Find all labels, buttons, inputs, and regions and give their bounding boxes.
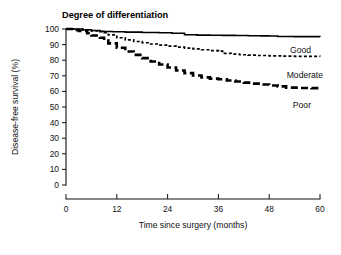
y-tick-label: 80 (50, 55, 60, 65)
series-curves (66, 29, 320, 88)
y-tick-label: 90 (50, 40, 60, 50)
series-label-moderate: Moderate (287, 70, 324, 80)
y-tick-label: 70 (50, 71, 60, 81)
chart-title-group: Degree of differentiation (62, 10, 169, 20)
x-tick-label: 24 (163, 204, 173, 214)
y-tick-label: 50 (50, 102, 60, 112)
y-tick-label: 0 (54, 180, 59, 190)
y-tick-label: 100 (45, 24, 59, 34)
y-tick-label: 20 (50, 149, 60, 159)
y-tick-label: 10 (50, 164, 60, 174)
x-axis-title: Time since surgery (months) (139, 220, 248, 230)
chart-title: Degree of differentiation (62, 10, 169, 20)
x-tick-label: 48 (265, 204, 275, 214)
y-axis-ticks: 0102030405060708090100 (45, 24, 66, 190)
x-axis-ticks: 01224364860 (64, 194, 325, 214)
y-tick-label: 40 (50, 118, 60, 128)
x-tick-label: 12 (112, 204, 122, 214)
curve-poor (66, 29, 320, 88)
series-label-poor: Poor (293, 100, 311, 110)
chart-figure: Degree of differentiation 01020304050607… (0, 0, 341, 255)
x-tick-label: 0 (64, 204, 69, 214)
curve-moderate (66, 29, 320, 57)
x-tick-label: 60 (315, 204, 325, 214)
series-label-good: Good (290, 45, 311, 55)
x-tick-label: 36 (214, 204, 224, 214)
y-axis-title: Disease-free survival (%) (10, 59, 20, 155)
series-labels: Good Moderate Poor (287, 45, 324, 110)
kaplan-meier-chart: Degree of differentiation 01020304050607… (0, 0, 341, 255)
y-tick-label: 60 (50, 86, 60, 96)
y-tick-label: 30 (50, 133, 60, 143)
